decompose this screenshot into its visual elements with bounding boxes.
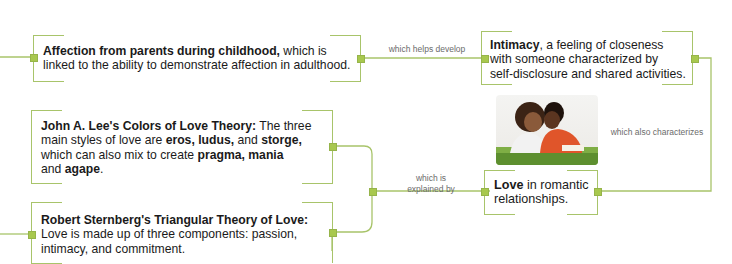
lee-text: The three	[256, 119, 311, 133]
node-love: Love in romantic relationships.	[494, 178, 604, 207]
sternberg-title: Robert Sternberg's Triangular Theory of …	[41, 213, 308, 227]
lee-text: .	[100, 162, 103, 176]
affection-text-1: which is	[280, 44, 327, 58]
intimacy-text-1: , a feeling of closeness	[539, 38, 663, 52]
love-text-2: relationships.	[494, 192, 568, 206]
connector-node	[329, 229, 337, 237]
node-affection: Affection from parents during childhood,…	[43, 44, 363, 73]
edge-label-line: which is	[416, 173, 446, 183]
node-lee-theory: John A. Lee's Colors of Love Theory: The…	[41, 119, 341, 177]
intimacy-title: Intimacy	[490, 38, 539, 52]
love-text-1: in romantic	[523, 178, 588, 192]
affection-text-2: linked to the ability to demonstrate aff…	[43, 58, 350, 72]
lee-bold: eros, ludus,	[166, 133, 234, 147]
connector-node	[481, 55, 489, 63]
sternberg-text-2: intimacy, and commitment.	[41, 242, 185, 256]
lee-text: and	[41, 162, 65, 176]
affection-title: Affection from parents during childhood,	[43, 44, 280, 58]
lee-text: main styles of love are	[41, 133, 166, 147]
connector-node	[594, 188, 602, 196]
lee-title: John A. Lee's Colors of Love Theory:	[41, 119, 256, 133]
connector-node	[481, 188, 489, 196]
lee-bold: agape	[65, 162, 100, 176]
node-sternberg-theory: Robert Sternberg's Triangular Theory of …	[41, 213, 351, 256]
lee-text: which can also mix to create	[41, 148, 197, 162]
intimacy-text-3: self-disclosure and shared activities.	[490, 67, 686, 81]
lee-text: and	[234, 133, 261, 147]
couple-photo-icon	[496, 95, 598, 165]
connector-node	[30, 54, 38, 62]
edge-label-line: explained by	[407, 184, 455, 194]
lee-bold: storge,	[261, 133, 302, 147]
connector-node	[357, 55, 365, 63]
edge-label-explained-by: which is explained by	[396, 173, 466, 195]
love-title: Love	[494, 178, 523, 192]
connector-node	[329, 143, 337, 151]
node-intimacy: Intimacy, a feeling of closeness with so…	[490, 38, 700, 81]
edge-label-also-characterizes: which also characterizes	[602, 127, 712, 138]
connector-node	[691, 55, 699, 63]
edge-label-helps-develop: which helps develop	[372, 44, 482, 55]
lee-bold: pragma, mania	[197, 148, 283, 162]
sternberg-text-1: Love is made up of three components: pas…	[41, 227, 297, 241]
connector-node	[28, 231, 36, 239]
connector-node	[369, 188, 377, 196]
intimacy-text-2: with someone characterized by	[490, 52, 658, 66]
